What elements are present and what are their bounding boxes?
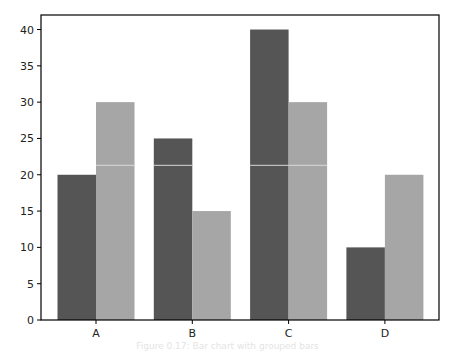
y-tick-label: 5 <box>27 278 34 291</box>
x-tick-label: B <box>189 327 197 340</box>
x-tick-label: A <box>92 327 100 340</box>
bar-b-series-2 <box>192 211 231 320</box>
y-tick-label: 0 <box>27 314 34 327</box>
bar-c-series-2 <box>289 102 328 320</box>
bar-d-series-2 <box>385 175 424 320</box>
y-tick-label: 40 <box>20 24 34 37</box>
bar-a-series-2 <box>96 102 135 320</box>
y-tick-label: 35 <box>20 60 34 73</box>
y-tick-label: 20 <box>20 169 34 182</box>
x-tick-label: C <box>285 327 293 340</box>
y-tick-label: 25 <box>20 132 34 145</box>
x-axis: ABCD <box>92 320 389 340</box>
y-tick-label: 30 <box>20 96 34 109</box>
y-tick-label: 10 <box>20 241 34 254</box>
bar-d-series-1 <box>346 247 385 320</box>
figure-caption: Figure 0.17: Bar chart with grouped bars <box>0 341 455 351</box>
bar-c-series-1 <box>250 30 289 320</box>
bar-chart: 0510152025303540 ABCD <box>0 0 455 359</box>
bars-group <box>58 30 424 320</box>
bar-a-series-1 <box>58 175 97 320</box>
x-tick-label: D <box>381 327 389 340</box>
y-tick-label: 15 <box>20 205 34 218</box>
y-axis: 0510152025303540 <box>20 24 41 327</box>
